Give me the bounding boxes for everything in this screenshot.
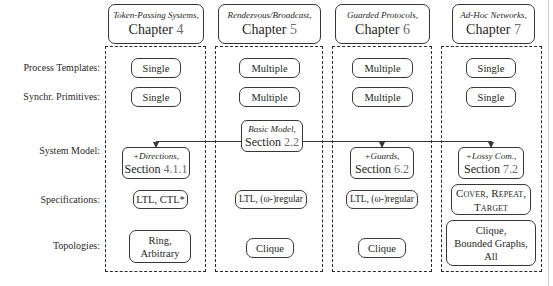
cell-specifications-guarded-protocols[interactable]: LTL, (ω-)regular (346, 190, 418, 209)
chapter-header-rendezvous-broadcast[interactable]: Rendezvous/Broadcast, Chapter 5 (218, 4, 321, 44)
chapter-header-guarded-protocols[interactable]: Guarded Protocols, Chapter 6 (335, 4, 430, 44)
row-label-topologies: Topologies: (0, 240, 100, 251)
chapter-header-title: Guarded Protocols, (347, 10, 418, 21)
arrowhead-icon-lossy-com (488, 142, 494, 148)
system-model-delta: +Directions, (133, 151, 179, 162)
cell-topologies-token-passing[interactable]: Ring, Arbitrary (129, 230, 191, 263)
system-model-section-label: Section (125, 162, 161, 176)
cell-specifications-token-passing[interactable]: LTL, CTL* (133, 190, 188, 209)
system-model-section-number: 4.1.1 (164, 162, 188, 176)
cell-process-templates-rendezvous-broadcast[interactable]: Multiple (239, 58, 300, 78)
arrowhead-icon-directions (153, 142, 159, 148)
specification-line: LTL, (ω-)regular (350, 193, 414, 206)
cell-process-templates-guarded-protocols[interactable]: Multiple (352, 58, 413, 78)
chapter-header-number: 7 (514, 22, 521, 37)
system-model-section-number: 6.2 (394, 162, 409, 176)
cell-specifications-rendezvous-broadcast[interactable]: LTL, (ω-)regular (235, 190, 307, 209)
cell-topologies-rendezvous-broadcast[interactable]: Clique (246, 238, 294, 258)
topology-line: Bounded Graphs, (454, 237, 528, 250)
cell-process-templates-ad-hoc-networks[interactable]: Single (466, 58, 516, 78)
row-label-system-model: System Model: (0, 145, 100, 156)
topology-line: All (484, 250, 497, 263)
connector-line-left (156, 141, 242, 142)
row-label-synchr-primitives: Synchr. Primitives: (0, 91, 100, 102)
chapter-header-label: Chapter (355, 22, 399, 37)
chapter-overview-diagram: Process Templates: Synchr. Primitives: S… (0, 0, 553, 286)
cell-topologies-ad-hoc-networks[interactable]: Clique, Bounded Graphs, All (446, 220, 536, 266)
specification-line: LTL, CTL* (136, 193, 185, 206)
page-edge-rule (548, 0, 549, 286)
chapter-header-label: Chapter (466, 22, 510, 37)
chapter-header-ad-hoc-networks[interactable]: Ad-Hoc Networks, Chapter 7 (452, 4, 535, 44)
cell-synchr-primitives-guarded-protocols[interactable]: Multiple (352, 87, 413, 107)
topology-line: Clique (368, 242, 396, 255)
chapter-header-label: Chapter (242, 22, 286, 37)
chapter-header-line: Chapter 7 (466, 21, 521, 38)
cell-system-model-rendezvous-broadcast[interactable]: Basic Model, Section 2.2 (241, 120, 303, 152)
topology-line: Clique, (476, 224, 507, 237)
cell-system-model-guarded-protocols[interactable]: +Guards, Section 6.2 (350, 147, 414, 179)
chapter-header-label: Chapter (129, 22, 173, 37)
chapter-header-number: 6 (403, 22, 410, 37)
chapter-header-line: Chapter 5 (242, 21, 297, 38)
arrowhead-icon-guards (379, 142, 385, 148)
system-model-delta: +Guards, (365, 151, 400, 162)
system-model-section-label: Section (245, 135, 281, 149)
specification-line: Target (474, 200, 508, 214)
system-model-delta: Basic Model, (248, 124, 296, 135)
chapter-header-line: Chapter 4 (129, 21, 184, 38)
row-label-specifications: Specifications: (0, 194, 100, 205)
system-model-section-label: Section (355, 162, 391, 176)
cell-synchr-primitives-ad-hoc-networks[interactable]: Single (466, 87, 516, 107)
topology-line: Clique (256, 242, 284, 255)
cell-system-model-ad-hoc-networks[interactable]: +Lossy Com., Section 7.2 (458, 147, 524, 179)
system-model-section: Section 7.2 (464, 162, 518, 176)
cell-synchr-primitives-rendezvous-broadcast[interactable]: Multiple (239, 87, 300, 107)
system-model-section-number: 2.2 (284, 135, 299, 149)
chapter-header-number: 4 (176, 22, 183, 37)
system-model-section-label: Section (464, 162, 500, 176)
system-model-section: Section 4.1.1 (125, 162, 188, 176)
row-label-process-templates: Process Templates: (0, 62, 100, 73)
cell-topologies-guarded-protocols[interactable]: Clique (358, 238, 406, 258)
connector-line-right (303, 141, 491, 142)
chapter-header-token-passing[interactable]: Token-Passing Systems, Chapter 4 (108, 4, 204, 44)
chapter-header-title: Rendezvous/Broadcast, (228, 10, 312, 21)
specification-line: LTL, (ω-)regular (239, 193, 303, 206)
system-model-section: Section 2.2 (245, 135, 299, 149)
specification-line: Cover, Repeat, (456, 186, 526, 200)
cell-synchr-primitives-token-passing[interactable]: Single (131, 87, 181, 107)
cell-system-model-token-passing[interactable]: +Directions, Section 4.1.1 (122, 147, 190, 179)
topology-line: Arbitrary (140, 247, 179, 260)
topology-line: Ring, (148, 234, 171, 247)
chapter-header-line: Chapter 6 (355, 21, 410, 38)
chapter-header-title: Ad-Hoc Networks, (460, 10, 527, 21)
system-model-section-number: 7.2 (503, 162, 518, 176)
cell-process-templates-token-passing[interactable]: Single (131, 58, 181, 78)
system-model-section: Section 6.2 (355, 162, 409, 176)
chapter-header-number: 5 (290, 22, 297, 37)
system-model-delta: +Lossy Com., (466, 151, 516, 162)
cell-specifications-ad-hoc-networks[interactable]: Cover, Repeat, Target (451, 184, 531, 215)
chapter-header-title: Token-Passing Systems, (113, 10, 199, 21)
